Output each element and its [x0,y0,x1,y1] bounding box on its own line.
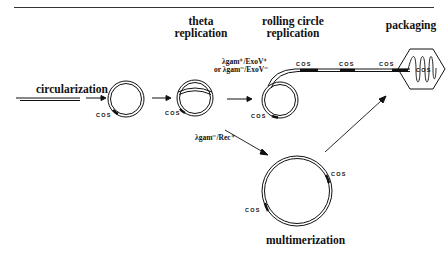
multimer-circle-icon [262,156,332,226]
circular-dna-icon [108,81,144,117]
cos-label: COS [165,110,181,116]
stage-label-theta: theta [186,15,216,27]
cos-label: COS [339,61,355,67]
condition-label-gam-rec: λgam⁻/Rec⁺ [195,133,235,142]
stage-label-rolling-replication: replication [258,27,328,39]
cos-label: COS [416,67,432,73]
cos-label: COS [331,171,347,177]
stage-label-packaging: packaging [378,19,444,31]
arrow-icon [86,96,106,101]
cos-label: COS [245,207,261,213]
cos-label: COS [379,61,395,67]
cos-label: COS [251,113,267,119]
cos-label: COS [96,112,112,118]
arrow-icon [227,97,252,102]
stage-label-theta-replication: replication [169,27,233,39]
stage-label-circularization: circularization [36,83,108,95]
arrow-icon [152,96,171,101]
condition-label-gam-exov-minus: or λgam⁻/ExoV⁻ [214,65,268,74]
linear-dna-icon [16,98,80,101]
theta-replication-icon [177,80,213,116]
arrow-icon [325,96,386,152]
stage-label-multimerization: multimerization [266,234,342,246]
rolling-circle-icon [262,69,410,118]
cos-label: COS [296,61,312,67]
stage-label-rolling-circle: rolling circle [252,15,334,27]
